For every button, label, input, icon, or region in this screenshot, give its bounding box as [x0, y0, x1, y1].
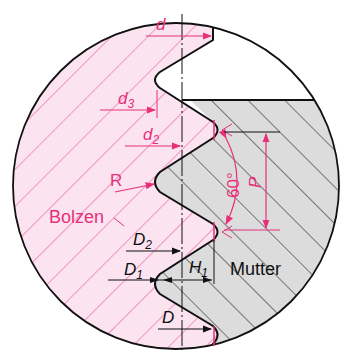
label-d: d — [156, 15, 166, 34]
label-nut: Mutter — [230, 259, 281, 279]
label-P: P — [246, 176, 265, 188]
label-angle: 60° — [224, 172, 243, 198]
thread-profile-diagram: d d3 d2 R 60° P Bolzen D2 D1 H1 Mutter D — [0, 0, 352, 362]
label-bolt: Bolzen — [49, 207, 104, 227]
label-R: R — [110, 171, 122, 190]
label-D: D — [162, 308, 174, 327]
